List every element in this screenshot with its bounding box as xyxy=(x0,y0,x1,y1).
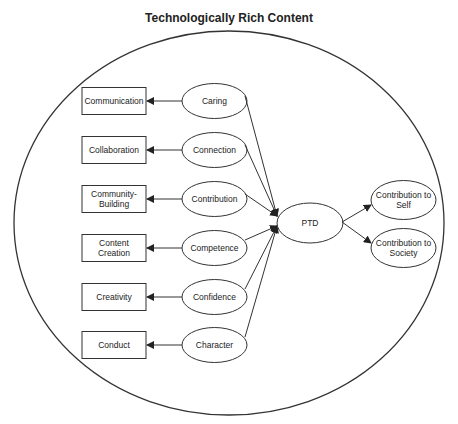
outcome-node: Community-Building xyxy=(82,186,146,213)
c-node: Character xyxy=(147,328,247,363)
c-node: Confidence xyxy=(147,280,247,315)
c-label: Competence xyxy=(190,243,238,253)
c-node: Competence xyxy=(147,231,247,266)
outcome-label: ContentCreation xyxy=(98,238,130,258)
diagram-canvas: CommunicationCollaborationCommunity-Buil… xyxy=(0,0,458,424)
arrow-to-ptd xyxy=(245,226,277,337)
contribution-node: Contribution toSociety xyxy=(371,229,436,268)
outcome-label: Collaboration xyxy=(89,145,139,155)
outcome-label: Creativity xyxy=(96,292,132,302)
c-node: Caring xyxy=(147,84,247,119)
c-label: Confidence xyxy=(193,292,236,302)
c-label: Connection xyxy=(193,145,236,155)
arrow-to-ptd xyxy=(245,226,277,240)
contribution-node: Contribution toSelf xyxy=(371,181,436,220)
arrow-to-ptd xyxy=(245,226,277,289)
arrow-to-contribution xyxy=(342,205,371,222)
outcome-node: Conduct xyxy=(82,332,146,359)
outcome-node: Communication xyxy=(82,88,146,115)
c-node: Connection xyxy=(147,133,247,168)
outcome-node: Creativity xyxy=(82,284,146,311)
arrow-to-contribution xyxy=(342,222,371,243)
c-label: Character xyxy=(196,340,233,350)
outcome-node: ContentCreation xyxy=(82,235,146,262)
outcome-label: Communication xyxy=(84,96,143,106)
c-label: Contribution xyxy=(192,194,238,204)
ptd-label: PTD xyxy=(302,218,319,228)
ptd-node: PTD xyxy=(277,203,343,243)
c-node: Contribution xyxy=(147,182,247,217)
c-label: Caring xyxy=(202,96,227,106)
outcome-node: Collaboration xyxy=(82,137,146,164)
outcome-label: Conduct xyxy=(98,340,130,350)
